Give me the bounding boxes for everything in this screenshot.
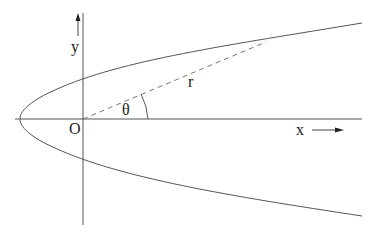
parabola-diagram: y O θ r x: [0, 0, 376, 235]
y-arrow-head-icon: [76, 13, 81, 21]
radius-line: [83, 42, 266, 119]
y-axis-label: y: [71, 38, 79, 56]
radius-label: r: [188, 73, 194, 90]
x-arrow-head-icon: [335, 128, 344, 133]
origin-label: O: [69, 120, 81, 137]
x-axis-label: x: [296, 121, 304, 138]
angle-arc: [141, 94, 148, 119]
angle-label: θ: [122, 101, 130, 118]
